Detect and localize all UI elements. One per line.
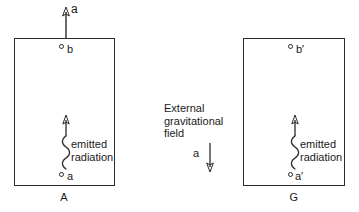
external-field-arrow xyxy=(207,143,214,172)
receiver-node-b-marker xyxy=(59,44,64,49)
external-field-caption-line3: field xyxy=(164,127,223,140)
external-field-vector-label: a xyxy=(193,148,199,159)
external-field-caption-line1: External xyxy=(164,102,223,115)
emitter-node-a-prime-label: a′ xyxy=(295,171,303,182)
emitter-node-a-label: a xyxy=(67,171,73,182)
acceleration-vector-label-a: a xyxy=(71,3,78,15)
chamber-caption-a: A xyxy=(44,191,84,203)
external-field-caption: External gravitational field xyxy=(164,102,223,140)
emitter-node-a-marker xyxy=(59,172,64,177)
receiver-node-b-label: b xyxy=(67,44,73,55)
emitted-radiation-line2-a: radiation xyxy=(71,151,113,164)
chamber-g-outline xyxy=(243,38,345,186)
chamber-a-outline xyxy=(14,38,115,186)
emitted-radiation-line1-a: emitted xyxy=(71,138,113,151)
emitted-radiation-label-g: emitted radiation xyxy=(300,138,342,163)
acceleration-arrow-a xyxy=(63,7,70,38)
equivalence-principle-figure: b a a emitted radiation A External gravi… xyxy=(0,0,359,212)
chamber-caption-g: G xyxy=(274,191,314,203)
emitted-radiation-line2-g: radiation xyxy=(300,151,342,164)
emitter-node-a-prime-marker xyxy=(288,172,293,177)
external-field-caption-line2: gravitational xyxy=(164,115,223,128)
emitted-radiation-line1-g: emitted xyxy=(300,138,342,151)
receiver-node-b-prime-label: b′ xyxy=(296,44,304,55)
receiver-node-b-prime-marker xyxy=(288,44,293,49)
emitted-radiation-label-a: emitted radiation xyxy=(71,138,113,163)
